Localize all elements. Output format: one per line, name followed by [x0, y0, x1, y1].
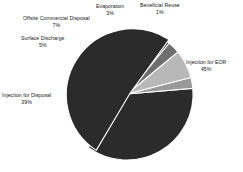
pie-label-name: Injection for EOR	[186, 59, 226, 66]
pie-label-value: 39%	[2, 99, 51, 106]
pie-label-value: 3%	[96, 10, 124, 17]
pie-label-value: 5%	[21, 42, 65, 49]
pie-label-name: Evaporation	[96, 3, 124, 10]
pie-chart: Injection for EOR 45% Injection for Disp…	[0, 0, 243, 172]
pie-label-name: Injection for Disposal	[2, 92, 51, 99]
pie-label-name: Surface Discharge	[21, 35, 65, 42]
pie-label-surface-discharge: Surface Discharge 5%	[21, 35, 65, 48]
pie-label-evaporation: Evaporation 3%	[96, 3, 124, 16]
pie-label-value: 1%	[140, 9, 180, 16]
pie-label-name: Offsite Commercial Disposal	[23, 15, 90, 22]
pie-label-offsite-commercial-disposal: Offsite Commercial Disposal 7%	[23, 15, 90, 28]
pie-label-beneficial-reuse: Beneficial Reuse 1%	[140, 2, 180, 15]
pie-label-injection-for-eor: Injection for EOR 45%	[186, 59, 226, 72]
pie-label-name: Beneficial Reuse	[140, 2, 180, 9]
pie-label-value: 7%	[23, 22, 90, 29]
pie-label-value: 45%	[186, 66, 226, 73]
pie-label-injection-for-disposal: Injection for Disposal 39%	[2, 92, 51, 105]
